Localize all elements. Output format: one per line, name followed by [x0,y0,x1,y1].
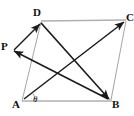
vertex-label-C: C [126,12,134,23]
vertex-label-P: P [1,41,8,52]
side-AD [22,22,41,101]
vectors [14,22,124,99]
side-BC [111,21,126,100]
vertex-label-B: B [112,99,119,110]
vector-D-to-B [41,23,109,99]
vertex-label-A: A [12,99,20,110]
geometry-figure: D C P A B θ [0,0,134,116]
vertex-label-D: D [33,7,41,18]
side-DC [41,20,126,21]
vector-P-to-D [14,24,40,50]
angle-label-theta: θ [33,95,37,104]
